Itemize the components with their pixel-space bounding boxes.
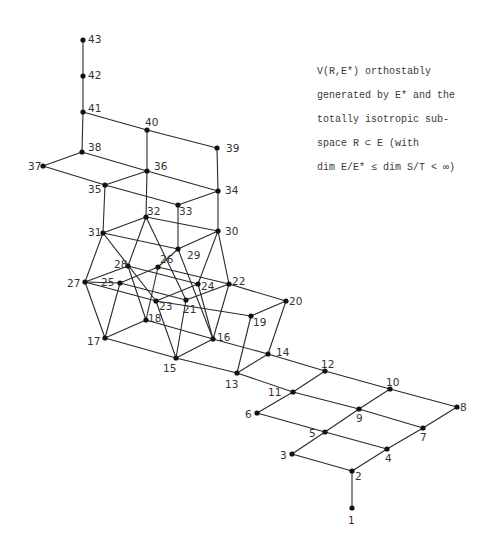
edge-11-12 [293,371,325,392]
node-label-13: 13 [225,378,238,390]
node-label-5: 5 [309,427,316,439]
edge-13-19 [237,316,251,373]
edge-7-8 [423,407,457,428]
node-label-28: 28 [114,258,127,270]
node-40 [144,127,149,132]
edge-34-39 [217,148,218,191]
node-label-38: 38 [88,141,101,153]
edge-9-10 [359,389,390,409]
node-label-40: 40 [145,116,158,128]
node-14 [265,351,270,356]
edge-17-18 [105,320,146,338]
node-label-3: 3 [280,449,287,461]
node-label-16: 16 [217,331,231,343]
node-label-27: 27 [67,277,80,289]
node-label-15: 15 [163,362,176,374]
edge-2-4 [352,449,387,471]
edge-15-16 [176,339,213,358]
node-label-10: 10 [386,376,399,388]
caption-line-4: space R ⊂ E (with [317,132,490,156]
edge-33-34 [178,191,218,205]
node-4 [384,446,389,451]
node-13 [234,370,239,375]
diagram-caption: V(R,E*) orthostably generated by E* and … [317,60,490,180]
node-3 [289,451,294,456]
caption-line-3: totally isotropic sub- [317,108,490,132]
edge-40-41 [83,112,147,130]
node-label-25: 25 [101,276,114,288]
node-label-14: 14 [276,346,290,358]
node-label-39: 39 [226,142,239,154]
edge-4-7 [387,428,423,449]
node-39 [214,145,219,150]
edge-9-11 [293,392,359,409]
node-label-30: 30 [225,225,238,237]
node-label-36: 36 [154,160,168,172]
node-label-42: 42 [88,69,101,81]
node-8 [454,404,459,409]
edge-37-38 [43,152,82,166]
node-label-19: 19 [253,316,266,328]
edge-8-10 [390,389,457,407]
node-label-29: 29 [187,249,200,261]
node-30 [215,228,220,233]
edge-13-14 [237,354,268,373]
node-6 [254,410,259,415]
node-label-9: 9 [356,412,363,424]
caption-line-1: V(R,E*) orthostably [317,60,490,84]
node-42 [80,73,85,78]
node-21 [183,297,188,302]
node-label-31: 31 [88,226,101,238]
edge-40-39 [147,130,217,148]
node-label-1: 1 [348,514,355,526]
node-label-18: 18 [148,312,161,324]
node-label-32: 32 [147,205,160,217]
edge-19-20 [251,301,286,316]
node-5 [322,429,327,434]
node-11 [290,389,295,394]
node-26 [155,264,160,269]
edge-30-22 [218,231,229,284]
node-34 [215,188,220,193]
node-label-35: 35 [88,183,101,195]
node-label-6: 6 [245,408,252,420]
node-24 [195,281,200,286]
edge-11-13 [237,373,293,392]
node-2 [349,468,354,473]
edge-2-3 [292,454,352,471]
edge-18-28 [128,266,146,320]
node-38 [79,149,84,154]
node-label-7: 7 [420,431,427,443]
node-1 [349,505,354,510]
node-label-4: 4 [385,452,392,464]
edge-35-36 [105,171,147,185]
node-label-41: 41 [88,102,101,114]
edge-38-41 [82,112,83,152]
node-label-11: 11 [268,386,281,398]
node-36 [144,168,149,173]
edge-36-38 [82,152,147,171]
node-25 [117,280,122,285]
node-label-2: 2 [355,470,362,482]
node-label-23: 23 [159,300,172,312]
node-41 [80,109,85,114]
node-29 [175,246,180,251]
node-label-26: 26 [160,253,174,265]
node-label-43: 43 [88,33,101,45]
node-43 [80,37,85,42]
edge-31-35 [103,185,105,233]
caption-line-5: dim E/E* ≤ dim S/T < ∞) [317,156,490,180]
node-16 [210,336,215,341]
node-label-8: 8 [460,401,467,413]
node-label-24: 24 [201,280,215,292]
node-label-12: 12 [321,358,334,370]
node-20 [283,298,288,303]
edge-36-34 [147,171,218,191]
edge-13-15 [176,358,237,373]
node-23 [153,298,158,303]
caption-line-2: generated by E* and the [317,84,490,108]
node-label-17: 17 [87,335,100,347]
edge-31-32 [103,217,146,233]
node-35 [102,182,107,187]
edge-7-9 [359,409,423,428]
